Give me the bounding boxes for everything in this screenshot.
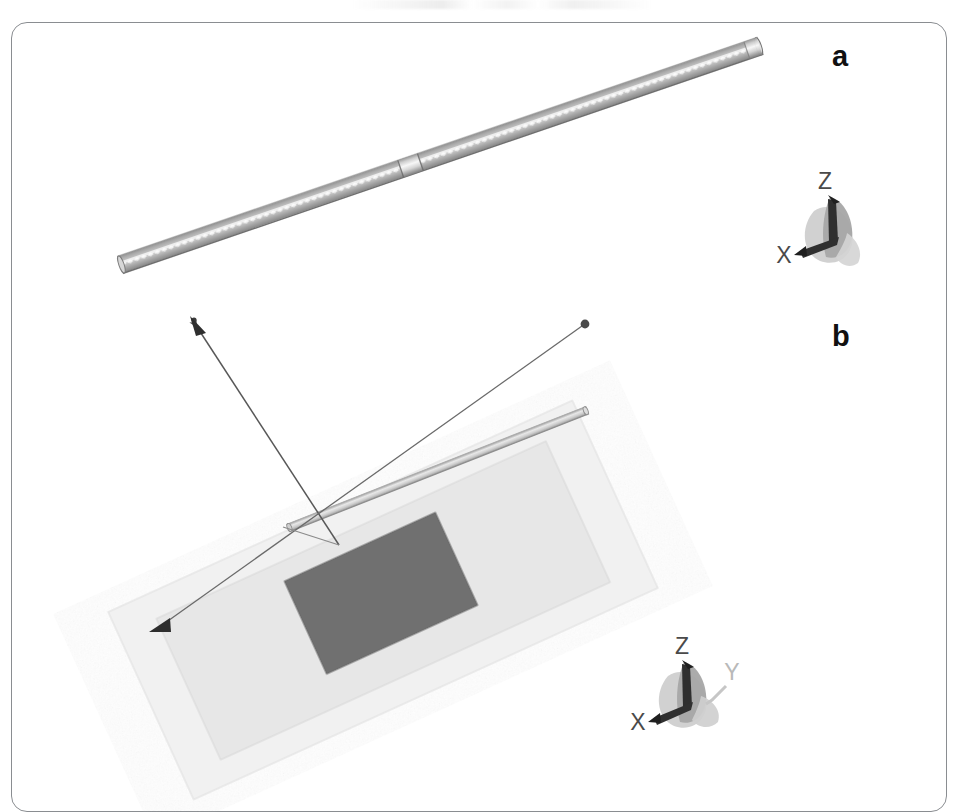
panel-b-group [108, 316, 658, 799]
axis-label-y-b: Y [724, 659, 739, 685]
coordinate-triad-b: Z X Y [630, 633, 739, 735]
panel-a-group [116, 36, 765, 274]
panel-letter-a: a [832, 42, 848, 71]
axis-label-x-a: X [776, 242, 791, 268]
axis-label-z-a: Z [818, 168, 832, 194]
dimension-leader [190, 316, 339, 545]
panel-letter-b: b [832, 322, 850, 351]
axis-label-x-b: X [630, 709, 645, 735]
threaded-rod [116, 36, 765, 274]
axis-label-z-b: Z [675, 633, 689, 659]
coordinate-triad-a: Z X [776, 168, 860, 268]
